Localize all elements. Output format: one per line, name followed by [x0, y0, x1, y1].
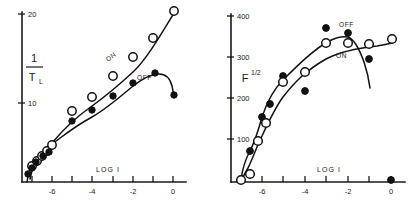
- points-left-on: [28, 7, 178, 170]
- points-left-off: [25, 70, 177, 177]
- x-tick-label-right-m2: -2: [345, 187, 352, 196]
- chart-panel-right: 400 300 200 100 -6 -4 -2 0 F 1/2: [209, 0, 418, 206]
- y-tick-label-right-300: 300: [237, 53, 250, 62]
- series-label-right-off: OFF: [339, 21, 354, 28]
- x-axis-title-right: LOG I: [317, 166, 341, 173]
- y-tick-label-right-200: 200: [237, 94, 250, 103]
- x-tick-label-right-m4: -4: [302, 187, 309, 196]
- y-tick-label-right-100: 100: [237, 135, 250, 144]
- x-axis-title-left: LOG I: [96, 166, 120, 173]
- x-tick-label-left-m4: -4: [89, 187, 96, 196]
- figure-container: 20 10 -6 -4 -2 0 1 T L: [0, 0, 418, 206]
- chart-panel-left: 20 10 -6 -4 -2 0 1 T L: [0, 0, 209, 206]
- x-tick-label-left-0: 0: [171, 187, 175, 196]
- x-tick-label-left-m6: -6: [49, 187, 56, 196]
- x-tick-label-right-0: 0: [389, 187, 393, 196]
- x-ticks-left: [32, 176, 173, 182]
- y-tick-label-right-400: 400: [237, 12, 250, 21]
- chart-left-svg: 20 10 -6 -4 -2 0 1 T L: [0, 0, 209, 206]
- y-axis-denominator-left: T: [29, 71, 36, 83]
- x-ticks-right: [241, 176, 391, 182]
- series-label-left-on: ON: [104, 50, 117, 62]
- series-label-right-on: ON: [336, 52, 347, 59]
- y-axis-title-right-sub: 1/2: [251, 69, 261, 76]
- x-tick-label-left-m2: -2: [130, 187, 137, 196]
- y-tick-label-left-1: 20: [28, 10, 36, 19]
- y-axis-numerator-left: 1: [31, 52, 37, 64]
- series-label-left-off: OFF: [137, 74, 152, 81]
- y-axis-title-left: 1 T L: [26, 52, 43, 85]
- y-axis-title-right-main: F: [242, 72, 249, 84]
- y-axis-title-right: F 1/2: [242, 69, 261, 84]
- x-tick-label-right-m6: -6: [259, 187, 266, 196]
- y-axis-denominator-sub-left: L: [39, 78, 43, 85]
- chart-right-svg: 400 300 200 100 -6 -4 -2 0 F 1/2: [209, 0, 418, 206]
- curve-right-off: [241, 37, 370, 180]
- y-tick-label-left-0: 10: [28, 99, 36, 108]
